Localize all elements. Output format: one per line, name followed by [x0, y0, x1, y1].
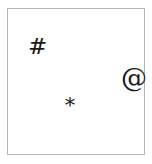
at-symbol-glyph: @ [121, 65, 147, 91]
asterisk-symbol-glyph: * [65, 95, 75, 115]
symbol-canvas-panel: # @ * [7, 8, 145, 155]
hash-symbol-glyph: # [28, 35, 47, 58]
